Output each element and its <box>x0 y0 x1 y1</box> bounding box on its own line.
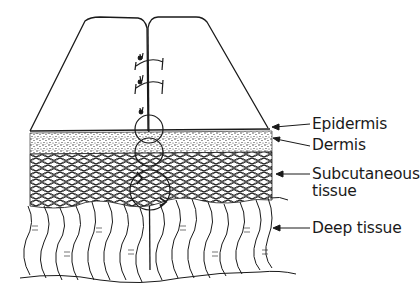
deep-tissue-layer <box>20 197 296 282</box>
label-arrows <box>272 124 310 231</box>
label-subcutaneous-tissue: Subcutaneous tissue <box>312 166 420 200</box>
subcutaneous-layer <box>30 152 272 208</box>
label-subcutaneous-line2: tissue <box>312 183 420 200</box>
label-deep-tissue: Deep tissue <box>312 220 401 237</box>
label-subcutaneous-line1: Subcutaneous <box>312 166 420 183</box>
label-epidermis: Epidermis <box>312 116 387 133</box>
label-dermis: Dermis <box>312 137 366 154</box>
